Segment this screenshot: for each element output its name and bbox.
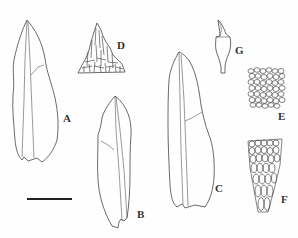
panel-label-d: D	[117, 40, 125, 51]
drawing-canvas	[0, 0, 298, 238]
leaf-a-drawing	[13, 20, 58, 162]
capsule-g-drawing	[216, 20, 231, 73]
leaf-b-drawing	[98, 96, 132, 228]
panel-label-e: E	[278, 111, 285, 122]
leaf-c-drawing	[168, 52, 214, 208]
basal-cells-f-drawing	[248, 139, 282, 212]
panel-label-g: G	[235, 45, 244, 56]
median-cells-e-drawing	[248, 68, 285, 109]
illustration-plate: A B C D E F G	[0, 0, 298, 238]
panel-label-a: A	[63, 113, 71, 124]
panel-label-c: C	[215, 183, 223, 194]
panel-label-f: F	[281, 194, 288, 205]
panel-label-b: B	[137, 209, 144, 220]
scale-bar	[27, 198, 72, 200]
